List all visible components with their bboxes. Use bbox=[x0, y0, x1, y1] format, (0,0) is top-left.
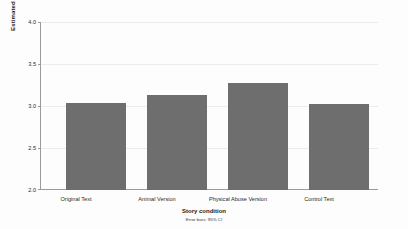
y-axis-title: Estimated Marginal Means bbox=[10, 0, 16, 52]
bar-slot bbox=[147, 22, 207, 190]
x-tick-label-physical-abuse-version: Physical Abuse Version bbox=[198, 196, 278, 202]
y-tick-label-0: 2.0 bbox=[10, 187, 36, 193]
bar-slot bbox=[309, 22, 369, 190]
x-axis-title: Story condition bbox=[0, 208, 408, 214]
bar-animal-version[interactable] bbox=[147, 95, 207, 190]
bar-control-text[interactable] bbox=[309, 104, 369, 190]
bar-slot bbox=[66, 22, 126, 190]
bar-physical-abuse-version[interactable] bbox=[228, 83, 288, 190]
y-tick-label-2: 3.0 bbox=[10, 103, 36, 109]
bar-slot bbox=[228, 22, 288, 190]
bars-layer bbox=[40, 22, 378, 190]
error-bar-annotation: Error bars: 95% CI bbox=[0, 217, 408, 222]
bar-chart: Estimated Marginal Means 4.0 3.5 3.0 2.5… bbox=[0, 0, 408, 229]
x-tick-label-control-text: Control Text bbox=[279, 196, 359, 202]
y-tick-label-1: 2.5 bbox=[10, 145, 36, 151]
x-tick-label-original-text: Original Text bbox=[36, 196, 116, 202]
x-tick-label-animal-version: Animal Version bbox=[117, 196, 197, 202]
bar-original-text[interactable] bbox=[66, 103, 126, 190]
y-tick-label-3: 3.5 bbox=[10, 61, 36, 67]
y-tick-label-4: 4.0 bbox=[10, 19, 36, 25]
